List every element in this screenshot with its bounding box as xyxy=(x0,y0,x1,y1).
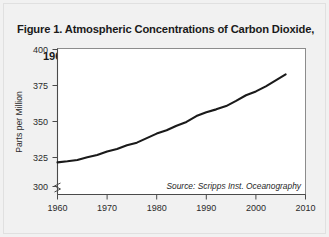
y-tick-label-400: 400 xyxy=(33,45,48,55)
y-tick-marks xyxy=(53,50,58,187)
x-tick-label-1960: 1960 xyxy=(47,203,67,213)
y-tick-label-325: 325 xyxy=(33,153,48,163)
y-tick-label-300: 300 xyxy=(33,182,48,192)
figure-container: Figure 1. Atmospheric Concentrations of … xyxy=(0,0,329,237)
source-note: Source: Scripps Inst. Oceanography xyxy=(166,181,301,191)
x-tick-label-2000: 2000 xyxy=(246,203,266,213)
y-axis-title: Parts per Million xyxy=(14,91,24,153)
x-tick-label-1980: 1980 xyxy=(147,203,167,213)
x-tick-marks xyxy=(58,195,306,200)
y-tick-label-375: 375 xyxy=(33,81,48,91)
y-tick-label-350: 350 xyxy=(33,117,48,127)
plot-frame xyxy=(58,49,306,195)
x-tick-label-2010: 2010 xyxy=(295,203,315,213)
x-tick-label-1990: 1990 xyxy=(196,203,216,213)
chart-plot-area: 400 375 350 325 300 Parts per Million 19… xyxy=(0,0,329,237)
x-tick-label-1970: 1970 xyxy=(97,203,117,213)
